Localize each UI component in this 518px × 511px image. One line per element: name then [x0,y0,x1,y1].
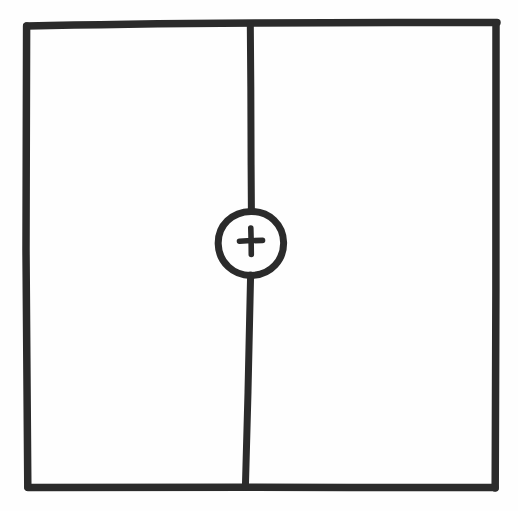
add-control-hitbox[interactable] [218,210,285,277]
frame-right-edge [495,23,496,488]
sketch-canvas: Split panel wireframe with circled plus … [0,0,518,511]
left-panel-region[interactable] [31,29,247,484]
divider-upper-segment [250,24,251,211]
right-panel-region[interactable] [255,27,492,485]
frame-left-edge [26,26,28,487]
frame-top-edge [27,22,497,26]
